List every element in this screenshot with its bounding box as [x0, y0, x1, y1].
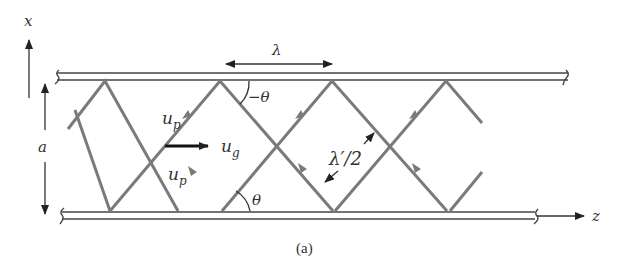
phase-velocity-bottom-label: up — [168, 164, 187, 188]
svg-text:−θ: −θ — [248, 88, 270, 106]
bottom-wall — [60, 208, 538, 224]
svg-text:λ′/2: λ′/2 — [328, 148, 362, 169]
z-axis-label: z — [591, 207, 600, 225]
x-axis-label: x — [24, 12, 33, 30]
group-velocity: ug — [165, 136, 240, 160]
ray-paths — [68, 81, 482, 211]
x-axis: x — [24, 12, 33, 98]
separation-label: a — [38, 138, 47, 156]
wavelength-label: λ — [271, 41, 282, 59]
group-velocity-label: ug — [221, 136, 240, 160]
angle-bottom: θ — [236, 191, 261, 211]
svg-text:θ: θ — [252, 191, 261, 209]
z-axis: z — [537, 207, 600, 225]
figure-caption: (a) — [296, 240, 313, 257]
waveguide-diagram: x z a λ — [0, 0, 627, 268]
angle-top: −θ — [240, 81, 270, 106]
wavelength-dimension: λ — [226, 41, 332, 64]
top-wall — [55, 70, 568, 85]
separation-dimension: a — [38, 84, 47, 214]
phase-velocity-top-label: up — [162, 108, 181, 132]
